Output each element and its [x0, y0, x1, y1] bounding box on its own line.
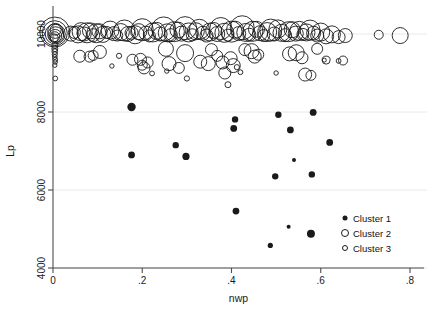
- data-point: [232, 116, 238, 122]
- data-point: [182, 153, 189, 160]
- x-tick-label: .4: [227, 275, 236, 286]
- data-point: [287, 127, 294, 134]
- data-point: [230, 125, 237, 132]
- data-point: [127, 103, 135, 111]
- chart-canvas: 0.2.4.6.8 40006000800010000 nwp Lp Clust…: [0, 0, 427, 325]
- plot-background: [0, 0, 427, 325]
- data-point: [128, 152, 135, 159]
- y-tick-label: 10000: [36, 20, 47, 48]
- data-point: [272, 173, 278, 179]
- scatter-plot: 0.2.4.6.8 40006000800010000 nwp Lp Clust…: [0, 0, 427, 325]
- data-point: [292, 158, 296, 162]
- data-point: [268, 243, 273, 248]
- y-tick-label: 4000: [36, 256, 47, 279]
- data-point: [326, 139, 333, 146]
- data-point: [309, 171, 315, 177]
- y-tick-label: 8000: [36, 100, 47, 123]
- data-point: [233, 208, 240, 215]
- data-point: [173, 142, 179, 148]
- data-point: [287, 225, 291, 229]
- y-axis-title: Lp: [4, 145, 16, 157]
- x-tick-label: .2: [138, 275, 147, 286]
- legend-label: Cluster 1: [353, 213, 391, 224]
- data-point: [307, 230, 315, 238]
- data-point: [310, 109, 317, 116]
- x-axis-title: nwp: [229, 292, 248, 304]
- x-tick-label: .8: [406, 275, 415, 286]
- x-tick-label: .6: [317, 275, 326, 286]
- y-tick-label: 6000: [36, 178, 47, 201]
- legend-label: Cluster 3: [353, 243, 391, 254]
- data-point: [275, 112, 281, 118]
- legend-marker: [343, 216, 348, 221]
- legend-label: Cluster 2: [353, 228, 391, 239]
- x-tick-label: 0: [50, 275, 56, 286]
